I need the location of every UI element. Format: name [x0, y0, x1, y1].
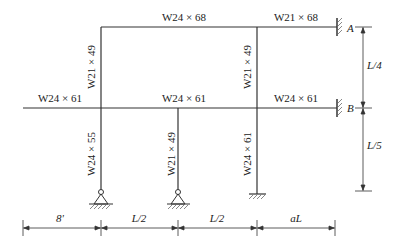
label-lower-col-right: W24 × 61 — [241, 132, 253, 176]
label-dim-l2-first: L/2 — [131, 212, 147, 224]
label-dim-l5: L/5 — [366, 139, 382, 151]
fixed-support-b-icon — [337, 99, 342, 117]
pin-support-left-icon — [89, 190, 113, 210]
label-upper-col-left: W21 × 49 — [85, 44, 97, 89]
label-lower-col-mid: W21 × 49 — [165, 131, 177, 176]
horizontal-dimension — [23, 220, 335, 236]
label-top-beam-left: W24 × 68 — [162, 11, 207, 23]
label-dim-l2-second: L/2 — [209, 212, 225, 224]
label-upper-col-right: W21 × 49 — [241, 44, 253, 89]
frame-diagram: W24 × 68 W21 × 68 W24 × 61 W24 × 61 W24 … — [0, 0, 402, 252]
label-top-beam-right: W21 × 68 — [274, 11, 319, 23]
label-dim-l4: L/4 — [366, 59, 382, 71]
label-support-a: A — [346, 22, 354, 34]
label-mid-beam-cantilever: W24 × 61 — [38, 92, 82, 104]
fixed-base-right-icon — [249, 194, 266, 199]
label-dim-al: aL — [290, 212, 302, 224]
label-mid-beam-right: W24 × 61 — [274, 92, 318, 104]
vertical-dimension — [355, 27, 372, 191]
label-mid-beam-center: W24 × 61 — [162, 92, 206, 104]
label-lower-col-left: W24 × 55 — [85, 131, 97, 176]
label-dim-8ft: 8' — [56, 212, 65, 224]
label-support-b: B — [347, 102, 354, 114]
pin-support-middle-icon — [167, 190, 190, 210]
fixed-support-a-icon — [337, 18, 342, 36]
